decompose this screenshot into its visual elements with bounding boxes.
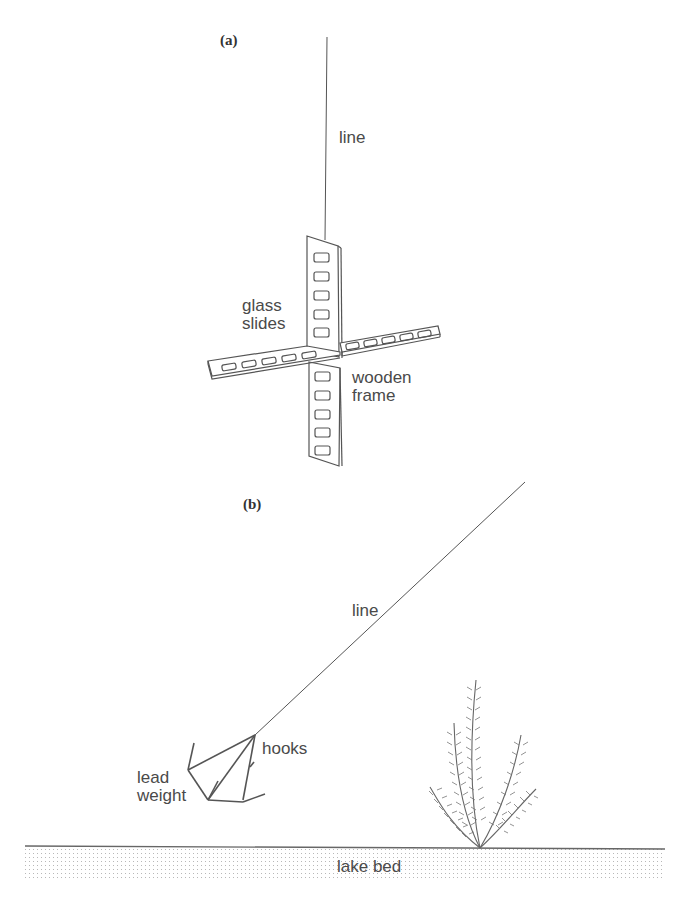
sampling-line: [255, 482, 525, 735]
label-slides: slides: [242, 314, 285, 333]
label-line-a: line: [339, 128, 365, 147]
panel-b-artwork: [25, 482, 665, 881]
panel-a-artwork: [208, 37, 440, 466]
label-wooden: wooden: [352, 368, 412, 387]
panel-a-label: (a): [220, 32, 238, 49]
panel-b-label: (b): [243, 496, 261, 513]
plant-leaves: [429, 687, 538, 837]
label-line-b: line: [352, 601, 378, 620]
label-hooks: hooks: [262, 739, 307, 758]
label-glass: glass: [242, 296, 282, 315]
label-lead: lead: [137, 768, 169, 787]
grapnel-hooks: [188, 735, 265, 802]
label-weight: weight: [137, 786, 186, 805]
suspension-line: [325, 37, 327, 240]
label-frame: frame: [352, 386, 395, 405]
label-lake-bed: lake bed: [337, 857, 401, 876]
figure-canvas: (a) (b) line glass slides wooden frame l…: [0, 0, 693, 905]
